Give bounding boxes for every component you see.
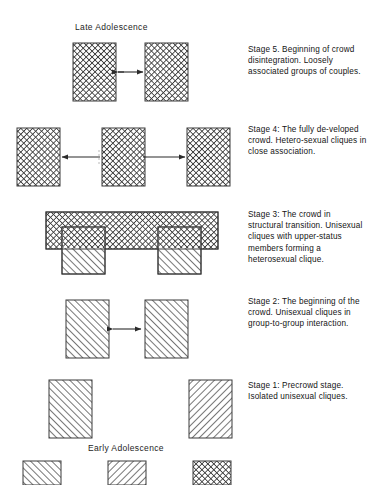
stage5-box-right (145, 43, 188, 101)
stage5-group (73, 43, 188, 101)
stage1-box-right (189, 380, 232, 438)
early-adolescence-label: Early Adolescence (88, 443, 164, 453)
legend-swatches (23, 461, 231, 485)
stage3-caption: Stage 3: The crowd in structural transit… (248, 209, 368, 265)
stage3-overlap-left (63, 228, 104, 248)
stage1-box-left (49, 380, 92, 438)
stage3-group (46, 212, 218, 274)
stage1-group (49, 380, 232, 438)
stage2-caption: Stage 2: The beginning of the crowd. Uni… (248, 296, 368, 330)
stage2-group (66, 300, 188, 358)
stage2-box-right (145, 300, 188, 358)
stage1-caption: Stage 1: Precrowd stage. Isolated unisex… (248, 380, 368, 402)
stage5-box-left (73, 43, 116, 101)
late-adolescence-label: Late Adolescence (75, 22, 148, 32)
legend-swatch-diagonal-forward (23, 461, 61, 485)
legend-swatch-diagonal-backward (108, 461, 146, 485)
stage4-box-left (17, 128, 60, 186)
stage4-box-center (102, 128, 145, 186)
stage4-caption: Stage 4: The fully de-veloped crowd. Het… (248, 124, 368, 158)
stage4-group (17, 128, 230, 186)
stage4-box-right (187, 128, 230, 186)
stage2-box-left (66, 300, 109, 358)
stage5-caption: Stage 5. Beginning of crowd disintegrati… (248, 44, 368, 78)
stage3-overlap-right (159, 228, 200, 248)
legend-swatch-crosshatch (193, 461, 231, 485)
